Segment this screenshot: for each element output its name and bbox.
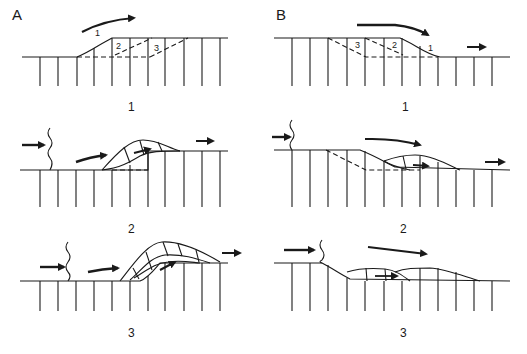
slide-mass [120,242,220,281]
vertical-markers [40,151,220,207]
panel-b-marker-2: 2 [392,40,397,50]
panel-a-step-1 [22,18,228,86]
ground-surface [20,263,228,281]
panel-b-step-3-label: 3 [400,326,407,340]
panel-a-marker-2: 2 [116,41,121,51]
wave-icon [290,120,294,150]
ground-surface [22,38,228,57]
panel-a-label: A [12,6,22,23]
vertical-markers [40,38,220,86]
flow-arrow-icon [76,155,106,162]
panel-a-step-3-label: 3 [128,326,135,340]
diagram-canvas [0,0,527,354]
panel-a-marker-1: 1 [95,28,100,38]
wave-icon [320,240,324,263]
internal-flow-arrow-icon [413,165,428,166]
panel-b-step-2 [272,120,510,207]
panel-b-step-3 [274,240,510,311]
panel-b-step-1-label: 1 [402,100,409,114]
wave-icon [66,242,70,281]
panel-a-step-2-label: 2 [128,222,135,236]
flow-arrow-icon [365,139,420,145]
panel-b-step-2-label: 2 [400,222,407,236]
panel-b-step-1 [274,25,510,86]
dashed-layer-boundaries [328,38,438,57]
flow-arrow-icon [88,268,118,272]
panel-b-marker-3: 3 [355,40,360,50]
panel-a-step-1-label: 1 [128,100,135,114]
ground-surface [274,150,510,170]
panel-b-marker-1: 1 [428,43,433,53]
flow-arrow-icon [368,247,426,254]
panel-b-label: B [276,6,286,23]
panel-a-step-3 [20,242,240,311]
ground-surface [274,263,510,281]
flow-arrow-icon [82,18,134,32]
panel-a-marker-3: 3 [154,43,159,53]
panel-a-step-2 [20,128,228,207]
slide-mass [347,268,480,281]
flow-arrow-icon [357,25,428,35]
slide-mass [102,140,180,170]
wave-icon [48,128,52,170]
